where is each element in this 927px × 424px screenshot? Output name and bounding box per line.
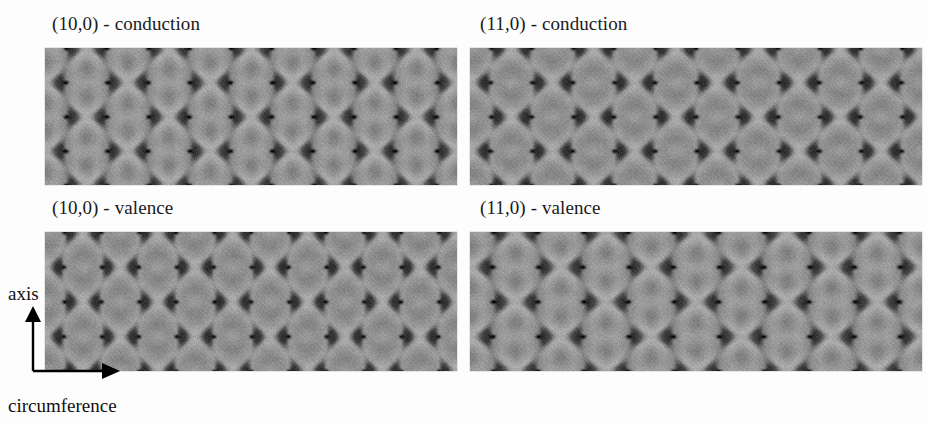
axis-label-axis: axis (8, 283, 39, 305)
panel-title-11-0-valence: (11,0) - valence (480, 197, 601, 219)
axis-label-circumference: circumference (8, 395, 117, 417)
figure-canvas: (10,0) - conduction (11,0) - conduction … (0, 0, 927, 424)
charge-density-canvas (45, 232, 457, 371)
density-map-11-0-conduction (470, 48, 922, 185)
charge-density-canvas (470, 48, 922, 185)
charge-density-canvas (45, 48, 457, 185)
axis-up-arrowhead (25, 306, 41, 322)
density-map-10-0-valence (45, 232, 457, 371)
panel-title-10-0-conduction: (10,0) - conduction (52, 13, 200, 35)
density-map-11-0-valence (470, 232, 922, 371)
panel-title-11-0-conduction: (11,0) - conduction (480, 13, 627, 35)
charge-density-canvas (470, 232, 922, 371)
density-map-10-0-conduction (45, 48, 457, 185)
panel-title-10-0-valence: (10,0) - valence (52, 197, 173, 219)
